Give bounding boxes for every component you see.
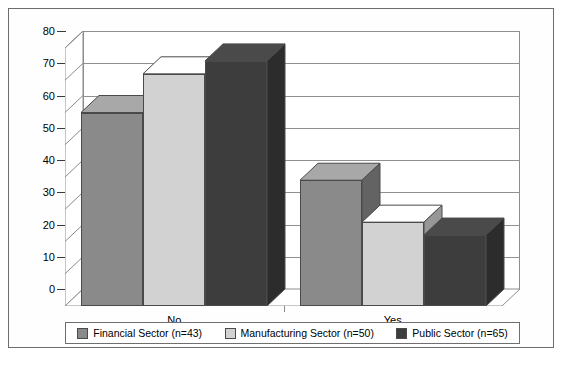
- bar: [143, 31, 205, 306]
- y-axis-tick-label: 50: [33, 122, 55, 134]
- bar-front-face: [362, 222, 424, 306]
- y-axis-tick-label: 0: [33, 283, 55, 295]
- legend-item-label: Manufacturing Sector (n=50): [241, 327, 374, 339]
- legend-item-label: Public Sector (n=65): [412, 327, 507, 339]
- bar-front-face: [300, 180, 362, 306]
- legend-item[interactable]: Public Sector (n=65): [396, 327, 507, 339]
- bar: [300, 31, 362, 306]
- y-axis-tick-label: 20: [33, 219, 55, 231]
- legend-swatch-icon: [396, 328, 407, 339]
- bar-front-face: [81, 113, 143, 307]
- bar: [205, 31, 267, 306]
- plot-area: NoYes: [65, 31, 520, 306]
- bar-front-face: [424, 235, 486, 306]
- legend-swatch-icon: [225, 328, 236, 339]
- legend-item[interactable]: Financial Sector (n=43): [77, 327, 202, 339]
- y-axis-tick-label: 80: [33, 25, 55, 37]
- y-axis-tick-label: 70: [33, 57, 55, 69]
- legend-swatch-icon: [77, 328, 88, 339]
- x-axis-tick-mark: [284, 306, 285, 312]
- y-axis-tick-label: 30: [33, 186, 55, 198]
- legend-item[interactable]: Manufacturing Sector (n=50): [225, 327, 374, 339]
- y-axis-labels: 01020304050607080: [31, 31, 55, 306]
- chart-legend: Financial Sector (n=43)Manufacturing Sec…: [65, 322, 520, 344]
- bar: [424, 31, 486, 306]
- chart-frame: 01020304050607080 NoYes Financial Sector…: [8, 8, 554, 348]
- bar-front-face: [143, 74, 205, 306]
- y-axis-tick-label: 40: [33, 154, 55, 166]
- bar: [81, 31, 143, 306]
- bar: [362, 31, 424, 306]
- y-axis-tick-label: 10: [33, 251, 55, 263]
- legend-item-label: Financial Sector (n=43): [93, 327, 202, 339]
- bar-front-face: [205, 61, 267, 306]
- y-axis-tick-label: 60: [33, 90, 55, 102]
